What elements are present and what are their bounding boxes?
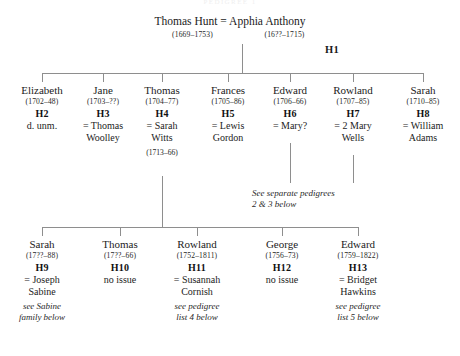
stem-gen3-1 (42, 227, 43, 236)
stem-gen3-3 (197, 227, 198, 236)
person-h12: George (1756–73) H12 no issue (242, 238, 322, 286)
person-h13-ref: H13 (318, 262, 398, 274)
person-h12-spouse-line1: no issue (242, 274, 322, 286)
stem-gen2-2 (103, 73, 104, 82)
person-h12-name: George (242, 238, 322, 251)
marriage-symbol: = (220, 15, 227, 27)
descent-line-gen1 (242, 44, 243, 73)
person-h8-spouse-line2: Adams (383, 132, 460, 144)
stem-gen2-6 (353, 73, 354, 82)
person-h13-dates: (1759–1822) (318, 251, 398, 260)
generation1-couple: Thomas Hunt = Apphia Anthony (0, 15, 460, 27)
person-h10-spouse-line1: no issue (80, 274, 160, 286)
stem-gen2-7 (423, 73, 424, 82)
person-h7-dates: (1707–85) (313, 97, 393, 106)
person-h11-note-line2: list 4 below (157, 312, 237, 323)
person-h11-ref: H11 (157, 262, 237, 274)
person-h7-spouse-line2: Wells (313, 132, 393, 144)
person-h10-dates: (17??–66) (80, 251, 160, 260)
stem-gen2-1 (42, 73, 43, 82)
person-h8: Sarah (1710–85) H8 = William Adams (383, 84, 460, 145)
person-h10-ref: H10 (80, 262, 160, 274)
person-h9-note-line1: see Sabine (2, 301, 82, 312)
person-h9-spouse-line2: Sabine (2, 286, 82, 298)
pedigree-chart: PEDIGREE 1 Thomas Hunt = Apphia Anthony … (0, 0, 460, 356)
person-h13: Edward (1759–1822) H13 = Bridget Hawkins… (318, 238, 398, 323)
person-h9-name: Sarah (2, 238, 82, 251)
descent-line-h4 (162, 176, 163, 227)
person-h11-dates: (1752–1811) (157, 251, 237, 260)
mother-dates: (16??–1715) (237, 30, 332, 39)
person-h9-ref: H9 (2, 262, 82, 274)
person-h9-note-line2: family below (2, 312, 82, 323)
stem-gen2-4 (228, 73, 229, 82)
person-h5-spouse-line2: Gordon (188, 132, 268, 144)
sibling-bar-gen3 (42, 227, 358, 228)
cut-off-title: PEDIGREE 1 (0, 0, 460, 6)
person-h7-spouse-line1: = 2 Mary (313, 120, 393, 132)
person-h7-ref: H7 (313, 108, 393, 120)
person-h7-name: Rowland (313, 84, 393, 97)
stem-gen3-4 (282, 227, 283, 236)
person-h9-spouse-line1: = Joseph (2, 274, 82, 286)
person-h8-spouse-line1: = William (383, 120, 460, 132)
person-h11-note-line1: see pedigree (157, 301, 237, 312)
father-dates-wrap: (1669–1753) (145, 30, 240, 39)
person-h13-spouse-line2: Hawkins (318, 286, 398, 298)
separate-pedigrees-note: See separate pedigrees 2 & 3 below (252, 188, 402, 211)
person-h11-name: Rowland (157, 238, 237, 251)
person-h9: Sarah (17??–88) H9 = Joseph Sabine see S… (2, 238, 82, 323)
person-h4-spouse-dates: (1713–66) (122, 148, 202, 157)
sibling-bar-gen2 (42, 73, 423, 74)
father-dates: (1669–1753) (145, 30, 240, 39)
person-h10: Thomas (17??–66) H10 no issue (80, 238, 160, 286)
person-h7: Rowland (1707–85) H7 = 2 Mary Wells (313, 84, 393, 145)
stem-gen2-3 (162, 73, 163, 82)
stem-gen2-5 (290, 73, 291, 82)
separate-pedigrees-note-line2: 2 & 3 below (252, 199, 402, 210)
person-h8-ref: H8 (383, 108, 460, 120)
separate-pedigrees-note-line1: See separate pedigrees (252, 188, 402, 199)
person-h12-dates: (1756–73) (242, 251, 322, 260)
generation1-names: Thomas Hunt = Apphia Anthony (0, 15, 460, 27)
descent-line-h7 (353, 155, 354, 183)
stem-gen3-5 (358, 227, 359, 236)
person-h8-dates: (1710–85) (383, 97, 460, 106)
ref-h1: H1 (325, 44, 339, 55)
father-name: Thomas Hunt (155, 15, 218, 27)
mother-dates-wrap: (16??–1715) (237, 30, 332, 39)
person-h8-name: Sarah (383, 84, 460, 97)
person-h13-name: Edward (318, 238, 398, 251)
person-h13-note-line1: see pedigree (318, 301, 398, 312)
person-h13-note-line2: list 5 below (318, 312, 398, 323)
person-h13-spouse-line1: = Bridget (318, 274, 398, 286)
descent-line-h6 (290, 143, 291, 183)
mother-name: Apphia Anthony (229, 15, 305, 27)
person-h11-spouse-line1: = Susannah (157, 274, 237, 286)
person-h12-ref: H12 (242, 262, 322, 274)
person-h9-dates: (17??–88) (2, 251, 82, 260)
stem-gen3-2 (120, 227, 121, 236)
person-h11: Rowland (1752–1811) H11 = Susannah Corni… (157, 238, 237, 323)
person-h11-spouse-line2: Cornish (157, 286, 237, 298)
person-h10-name: Thomas (80, 238, 160, 251)
